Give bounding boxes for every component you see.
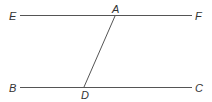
segment-ad xyxy=(84,16,115,87)
label-b: B xyxy=(9,82,16,94)
label-a: A xyxy=(111,3,119,15)
label-f: F xyxy=(195,10,203,22)
label-c: C xyxy=(195,82,203,94)
label-e: E xyxy=(9,10,17,22)
geometry-diagram: E A F B D C xyxy=(0,0,212,102)
label-d: D xyxy=(81,89,89,101)
